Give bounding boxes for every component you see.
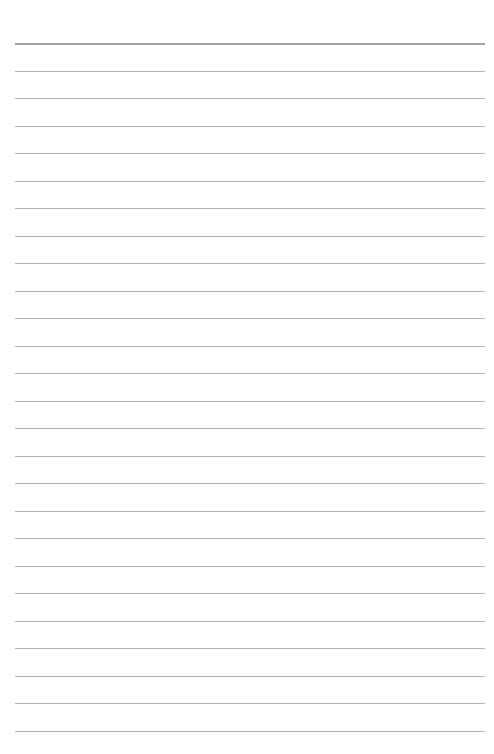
ruled-line: [15, 346, 485, 347]
lined-paper-page: [0, 0, 494, 754]
ruled-line: [15, 648, 485, 649]
ruled-line: [15, 731, 485, 732]
ruled-line: [15, 263, 485, 264]
ruled-line: [15, 511, 485, 512]
ruled-line: [15, 483, 485, 484]
ruled-line: [15, 208, 485, 209]
ruled-line: [15, 566, 485, 567]
ruled-line: [15, 676, 485, 677]
ruled-line: [15, 291, 485, 292]
ruled-line: [15, 621, 485, 622]
ruled-line: [15, 703, 485, 704]
ruled-line: [15, 401, 485, 402]
ruled-line: [15, 428, 485, 429]
ruled-line: [15, 98, 485, 99]
ruled-line: [15, 373, 485, 374]
ruled-line: [15, 538, 485, 539]
ruled-line: [15, 153, 485, 154]
ruled-line: [15, 318, 485, 319]
ruled-line: [15, 71, 485, 72]
header-rule-line: [15, 43, 485, 45]
ruled-line: [15, 181, 485, 182]
ruled-line: [15, 236, 485, 237]
ruled-line: [15, 126, 485, 127]
ruled-line: [15, 456, 485, 457]
ruled-line: [15, 593, 485, 594]
